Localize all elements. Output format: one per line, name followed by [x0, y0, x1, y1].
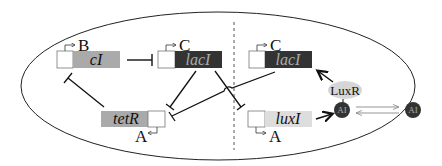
repression-lacI-luxI	[215, 71, 245, 110]
promoter-arrow-icon	[148, 127, 157, 133]
activation-LuxR-lacI	[318, 71, 333, 82]
promoter-box-tetR	[148, 111, 165, 127]
promoter-label-B: B	[78, 36, 89, 55]
promoter-arrow-icon	[256, 127, 266, 133]
ai-label-outside: AI	[408, 105, 418, 115]
gene-lacI-left: lacI C	[158, 36, 222, 68]
gene-label-tetR: tetR	[113, 110, 139, 127]
genetic-circuit-diagram: cI B lacI C lacI C tetR A luxI A	[0, 0, 442, 166]
gene-tetR: tetR A	[101, 110, 165, 146]
diffusion-arrows	[356, 107, 399, 113]
repression-lacI-tetR	[166, 71, 196, 110]
promoter-label-C-left: C	[179, 36, 190, 55]
promoter-arrow-icon	[257, 45, 267, 51]
gene-luxI: luxI A	[248, 110, 312, 146]
gene-label-cI: cI	[90, 51, 103, 68]
gene-cI: cI B	[57, 36, 120, 68]
promoter-box-lacI-left	[158, 51, 175, 68]
promoter-label-C-right: C	[270, 36, 281, 55]
promoter-arrow-icon	[65, 45, 75, 51]
promoter-box-cI	[57, 51, 73, 68]
ai-molecule-inside: AI	[334, 102, 350, 118]
promoter-label-A-tetR: A	[135, 127, 148, 146]
repression-tetR-cI	[64, 73, 104, 107]
promoter-box-lacI-right	[249, 51, 265, 68]
luxR-protein: LuxR	[328, 81, 362, 103]
promoter-box-luxI	[248, 111, 265, 127]
gene-lacI-right: lacI C	[249, 36, 312, 68]
activation-luxI-AI	[316, 114, 332, 119]
promoter-label-A-luxI: A	[269, 127, 282, 146]
promoter-arrow-icon	[166, 45, 176, 51]
repression-cI-lacI	[127, 54, 152, 66]
ai-molecule-outside: AI	[405, 102, 421, 118]
luxR-label: LuxR	[330, 83, 360, 98]
ai-label-inside: AI	[337, 105, 347, 115]
gene-label-luxI: luxI	[276, 110, 302, 127]
